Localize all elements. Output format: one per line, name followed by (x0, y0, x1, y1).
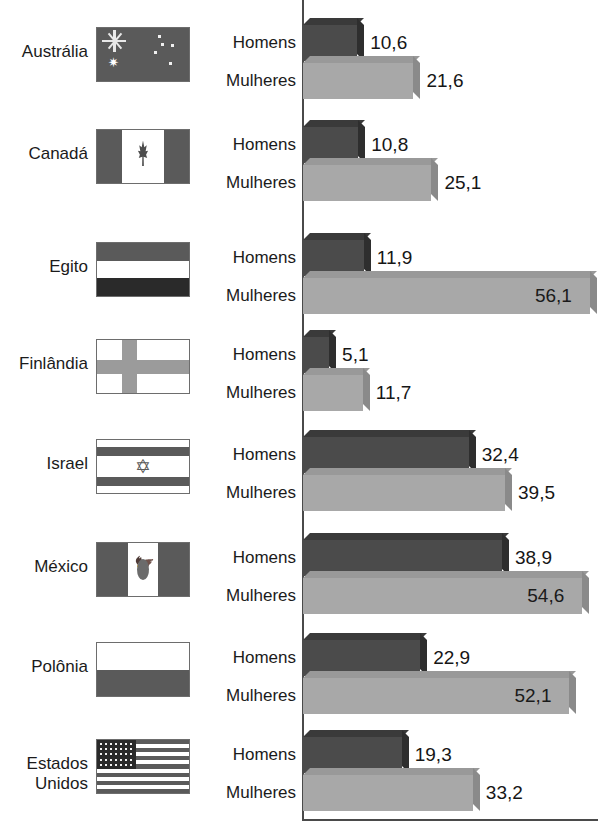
series-label-women: Mulheres (186, 784, 296, 801)
bar-value-label: 32,4 (482, 445, 519, 464)
chart-group: Austrália✷Homens10,6Mulheres21,6 (0, 18, 600, 99)
bar-top-face (303, 18, 364, 25)
country-label: Israel (0, 454, 88, 474)
bar-chart-figure: Austrália✷Homens10,6Mulheres21,6CanadáHo… (0, 0, 600, 829)
star-of-david: ✡ (132, 457, 154, 476)
series-label-men: Homens (186, 649, 296, 666)
bar-value-label: 54,6 (527, 586, 564, 605)
series-label-men: Homens (186, 346, 296, 363)
bar-men (303, 730, 402, 766)
series-label-women: Mulheres (186, 287, 296, 304)
bar-men (303, 633, 420, 669)
bar-top-face (303, 633, 427, 640)
bar-value-label: 11,7 (376, 383, 412, 402)
series-label-men: Homens (186, 746, 296, 763)
flag-egypt (96, 242, 190, 297)
bar-value-label: 5,1 (342, 345, 368, 364)
series-label-women: Mulheres (186, 174, 296, 191)
bar-top-face (303, 368, 370, 375)
bar-top-face (303, 158, 438, 165)
series-label-men: Homens (186, 34, 296, 51)
bar-side-face (357, 18, 364, 61)
bar-men (303, 533, 502, 569)
axis-bottom-line (302, 819, 598, 821)
flag-poland (96, 642, 190, 697)
chart-group: EgitoHomens11,9Mulheres56,1 (0, 233, 600, 314)
bar-side-face (329, 330, 336, 373)
bar-value-label: 56,1 (535, 286, 572, 305)
bar-women (303, 768, 473, 804)
series-label-men: Homens (186, 136, 296, 153)
country-label: Austrália (0, 42, 88, 62)
series-label-women: Mulheres (186, 587, 296, 604)
bar-value-label: 21,6 (426, 71, 463, 90)
flag-canada (96, 129, 190, 184)
bar-side-face (582, 571, 589, 614)
bar-men (303, 430, 469, 466)
bar-value-label: 39,5 (518, 483, 555, 502)
bar-side-face (505, 468, 512, 511)
bar-side-face (502, 533, 509, 576)
bar-side-face (363, 368, 370, 411)
bar-value-label: 33,2 (486, 783, 523, 802)
bar-men (303, 120, 358, 156)
bar-side-face (431, 158, 438, 201)
bar-side-face (469, 430, 476, 473)
bar-side-face (473, 768, 480, 811)
flag-finland (96, 339, 190, 394)
flag-mexico: 🦅 (96, 542, 190, 597)
country-label: México (0, 557, 88, 577)
chart-group: Israel✡Homens32,4Mulheres39,5 (0, 430, 600, 511)
bar-side-face (420, 633, 427, 676)
bar-side-face (413, 56, 420, 99)
series-label-women: Mulheres (186, 384, 296, 401)
chart-group: México🦅Homens38,9Mulheres54,6 (0, 533, 600, 614)
star-commonwealth: ✷ (106, 56, 121, 69)
bar-top-face (303, 271, 597, 278)
series-label-men: Homens (186, 249, 296, 266)
country-label: Finlândia (0, 354, 88, 374)
bar-top-face (303, 430, 476, 437)
bar-women (303, 158, 431, 194)
bar-men (303, 233, 364, 269)
chart-group: PolôniaHomens22,9Mulheres52,1 (0, 633, 600, 714)
bar-top-face (303, 768, 480, 775)
bar-women (303, 368, 363, 404)
flag-israel: ✡ (96, 439, 190, 494)
bar-women (303, 468, 505, 504)
bar-top-face (303, 233, 371, 240)
bar-side-face (402, 730, 409, 773)
bar-front-face (303, 63, 413, 99)
bar-side-face (358, 120, 365, 163)
bar-value-label: 10,8 (371, 135, 408, 154)
bar-value-label: 19,3 (415, 745, 452, 764)
flag-united-states (96, 739, 190, 794)
chart-group: Estados UnidosHomens19,3Mulheres33,2 (0, 730, 600, 811)
country-label: Egito (0, 257, 88, 277)
bar-top-face (303, 533, 509, 540)
chart-group: CanadáHomens10,8Mulheres25,1 (0, 120, 600, 201)
bar-side-face (364, 233, 371, 276)
country-label: Canadá (0, 144, 88, 164)
bar-value-label: 10,6 (370, 33, 407, 52)
bar-value-label: 52,1 (514, 686, 551, 705)
bar-men (303, 18, 357, 54)
bar-top-face (303, 120, 365, 127)
bar-front-face (303, 775, 473, 811)
bar-top-face (303, 671, 576, 678)
bar-top-face (303, 730, 409, 737)
bar-value-label: 25,1 (444, 173, 481, 192)
series-label-women: Mulheres (186, 72, 296, 89)
series-label-men: Homens (186, 446, 296, 463)
series-label-women: Mulheres (186, 687, 296, 704)
bar-value-label: 22,9 (433, 648, 470, 667)
bar-front-face (303, 475, 505, 511)
bar-men (303, 330, 329, 366)
bar-value-label: 38,9 (515, 548, 552, 567)
series-label-men: Homens (186, 549, 296, 566)
country-label: Estados Unidos (0, 754, 88, 794)
bar-top-face (303, 571, 589, 578)
bar-top-face (303, 56, 420, 63)
bar-side-face (569, 671, 576, 714)
bar-front-face (303, 375, 363, 411)
